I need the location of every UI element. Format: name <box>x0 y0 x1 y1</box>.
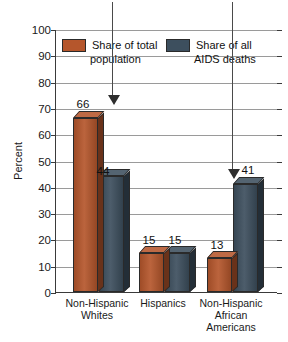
bar-population-group-3 <box>207 258 232 292</box>
y-axis-title: Percent <box>12 142 24 180</box>
y-axis-tick-label: 80 <box>17 77 51 89</box>
bar-population-group-2 <box>139 253 164 292</box>
x-axis-label-3: Non-HispanicAfricanAmericans <box>185 297 277 333</box>
chart-legend: Share of total population Share of all A… <box>62 38 267 66</box>
bar-value-label: 13 <box>211 239 224 251</box>
y-axis-tick-right <box>277 188 282 189</box>
legend-swatch-aids-deaths <box>166 39 190 52</box>
legend-label-population-line2: population <box>90 52 162 66</box>
gridline <box>56 109 278 110</box>
y-axis-tick-right <box>277 30 282 31</box>
bar-value-label: 66 <box>77 98 90 110</box>
y-axis-tick-right <box>277 267 282 268</box>
y-axis-tick <box>51 162 56 163</box>
bar-value-label: 41 <box>242 164 255 176</box>
y-axis-tick-right <box>277 293 282 294</box>
y-axis-tick-right <box>277 214 282 215</box>
x-axis-label-line: African <box>185 309 277 321</box>
x-axis-category-labels: Non-HispanicWhitesHispanicsNon-HispanicA… <box>55 297 277 342</box>
bar-top-face <box>207 251 238 258</box>
chart-title-cropped: A Picture of Difference <box>0 0 288 7</box>
bar-side-face <box>190 247 196 292</box>
legend-label-population-line1: Share of total <box>92 39 157 51</box>
chart-title: A Picture of Difference <box>28 0 261 5</box>
x-axis-label-line: Non-Hispanic <box>185 297 277 309</box>
y-axis-tick <box>51 293 56 294</box>
y-axis-tick-label: 20 <box>17 234 51 246</box>
annotation-arrow-down-to-41 <box>232 2 233 170</box>
y-axis-tick-label: 40 <box>17 182 51 194</box>
bar-population-group-1 <box>73 118 98 292</box>
legend-label-aids-deaths-line1: Share of all <box>196 39 252 51</box>
y-axis-tick-right <box>277 109 282 110</box>
y-axis-tick-right <box>277 162 282 163</box>
y-axis-tick <box>51 56 56 57</box>
bar-front-face <box>207 258 232 292</box>
y-axis-tick <box>51 240 56 241</box>
bar-front-face <box>139 253 164 292</box>
y-axis-tick-label: 30 <box>17 208 51 220</box>
legend-item-aids-deaths: Share of all AIDS deaths <box>166 38 266 66</box>
y-axis-tick <box>51 214 56 215</box>
bar-side-face <box>232 252 238 292</box>
gridline <box>56 83 278 84</box>
chart-root: A Picture of Difference 1009080706050403… <box>0 0 288 342</box>
bar-side-face <box>164 247 170 292</box>
x-axis-label-line: Whites <box>51 309 143 321</box>
y-axis-tick <box>51 135 56 136</box>
bar-side-face <box>124 171 130 292</box>
bar-top-face <box>139 246 170 253</box>
bar-value-label: 15 <box>169 234 182 246</box>
bar-value-label: 44 <box>97 165 110 177</box>
y-axis-tick-right <box>277 56 282 57</box>
y-axis-tick-label: 70 <box>17 103 51 115</box>
y-axis-tick-right <box>277 135 282 136</box>
y-axis-tick-right <box>277 240 282 241</box>
y-axis-tick-right <box>277 83 282 84</box>
y-axis-tick-label: 10 <box>17 261 51 273</box>
y-axis-tick-label: 100 <box>17 24 51 36</box>
y-axis-tick-label: 60 <box>17 129 51 141</box>
bar-side-face <box>98 113 104 292</box>
bar-front-face <box>73 118 98 292</box>
x-axis-label-line: Americans <box>185 321 277 333</box>
y-axis-tick-label: 90 <box>17 50 51 62</box>
y-axis-tick <box>51 188 56 189</box>
annotation-arrow-down-to-66 <box>112 2 113 96</box>
bar-value-label: 15 <box>143 234 156 246</box>
legend-swatch-population <box>62 39 86 52</box>
bar-side-face <box>258 179 264 292</box>
gridline <box>56 30 278 31</box>
y-axis-tick <box>51 83 56 84</box>
y-axis-tick <box>51 109 56 110</box>
y-axis-tick <box>51 267 56 268</box>
y-axis-tick-label: 0 <box>17 287 51 299</box>
plot-area: 1009080706050403020100664415151341 <box>55 30 277 293</box>
y-axis-tick <box>51 30 56 31</box>
legend-label-aids-deaths-line2: AIDS deaths <box>194 52 266 66</box>
